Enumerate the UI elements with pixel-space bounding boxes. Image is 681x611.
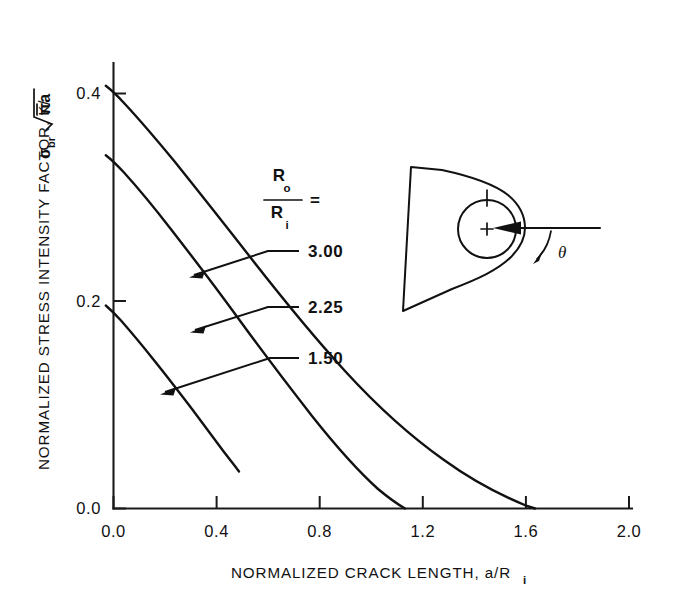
legend-label-2.25: 2.25 (308, 298, 343, 317)
legend-title-equals: = (310, 191, 320, 210)
x-tick-label-0.4: 0.4 (204, 522, 229, 540)
radial-crack-arrowhead (493, 222, 521, 235)
curve-series-1.50 (106, 306, 239, 472)
y-axis-title-radicand: πa (36, 94, 53, 115)
legend-title-numerator-subscript: o (283, 182, 290, 194)
x-tick-label-2.0: 2.0 (617, 522, 642, 540)
y-axis-title-sigma: σ (36, 148, 53, 159)
legend-label-3.00: 3.00 (308, 242, 343, 261)
leader-line-3.00 (194, 251, 299, 275)
axes-group (114, 63, 633, 509)
theta-label: θ (558, 243, 566, 262)
legend-title-denominator: R (271, 203, 283, 222)
figure-root: 0.4 0.2 0.0 0.0 0.4 0.8 1.2 1.6 2.0 NORM… (0, 0, 681, 611)
radial-crack-arrow (493, 222, 600, 235)
legend-values: 3.00 2.25 1.50 (308, 242, 343, 368)
legend-title: R o R i = (264, 166, 320, 231)
hole-center-mark (481, 223, 493, 235)
legend-label-1.50: 1.50 (308, 349, 343, 368)
theta-arc (537, 231, 551, 259)
x-tick-label-0.8: 0.8 (307, 522, 332, 540)
y-axis-title: NORMALIZED STRESS INTENSITY FACTOR, K/ σ… (34, 89, 57, 470)
theta-arrowhead (533, 250, 543, 264)
x-tick-labels: 0.0 0.4 0.8 1.2 1.6 2.0 (101, 522, 641, 540)
x-tick-label-1.6: 1.6 (514, 522, 539, 540)
curve-series-2.25 (106, 155, 405, 508)
lug-outline (403, 167, 525, 311)
x-axis-title: NORMALIZED CRACK LENGTH, a/R i (231, 564, 526, 586)
y-tick-label-0.2: 0.2 (76, 292, 101, 310)
leader-arrowhead-3.00 (189, 271, 205, 279)
leader-line-2.25 (195, 307, 299, 330)
y-axis-title-subscript: br (45, 136, 57, 148)
leader-arrowhead-2.25 (190, 326, 206, 334)
y-tick-labels: 0.4 0.2 0.0 (76, 84, 101, 517)
theta-angle-indicator: θ (533, 231, 566, 264)
leader-arrowhead-1.50 (160, 388, 176, 396)
x-axis-title-subscript: i (523, 574, 526, 586)
y-ticks-group (114, 94, 127, 509)
legend-title-denominator-subscript: i (285, 219, 288, 231)
x-tick-label-0.0: 0.0 (101, 522, 126, 540)
y-tick-label-0.4: 0.4 (76, 84, 101, 102)
x-axis-title-text: NORMALIZED CRACK LENGTH, a/R (231, 564, 511, 581)
inset-lug-diagram: θ (403, 167, 600, 311)
x-tick-label-1.2: 1.2 (410, 522, 435, 540)
y-tick-label-0.0: 0.0 (76, 499, 101, 517)
x-ticks-group (114, 496, 630, 509)
